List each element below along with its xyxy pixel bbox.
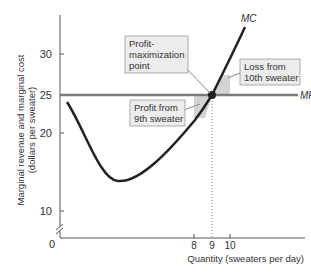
profit-max-text-3: point [129, 60, 150, 71]
x-tick-label-10: 10 [224, 240, 236, 251]
callout-line-profit-max [185, 67, 210, 93]
y-tick-label-20: 20 [40, 127, 52, 139]
profit-max-text-1: Profit- [129, 38, 154, 49]
y-tick-label-25: 25 [40, 89, 52, 101]
chart-svg: 30 25 20 10 0 8 9 10 Quantity (sweaters … [0, 0, 311, 276]
origin-label: 0 [49, 238, 55, 250]
y-tick-label-30: 30 [40, 48, 52, 60]
mr-label: MR [300, 90, 311, 101]
x-axis-label: Quantity (sweaters per day) [187, 253, 304, 264]
y-axis-label-line2: (dollars per sweater) [26, 87, 37, 174]
profit-max-text-2: maximization [129, 49, 184, 60]
profit-9th-text-2: 9th sweater [134, 113, 183, 124]
loss-10th-text-2: 10th sweater [244, 72, 298, 83]
profit-9th-text-1: Profit from [134, 102, 178, 113]
x-tick-label-9: 9 [209, 240, 215, 251]
x-tick-label-8: 8 [191, 240, 197, 251]
y-axis-label-line1: Marginal revenue and marginal cost [15, 54, 26, 205]
mr-mc-chart: 30 25 20 10 0 8 9 10 Quantity (sweaters … [0, 0, 311, 276]
mc-label: MC [241, 13, 257, 24]
y-tick-label-10: 10 [40, 205, 52, 217]
loss-10th-text-1: Loss from [244, 61, 286, 72]
